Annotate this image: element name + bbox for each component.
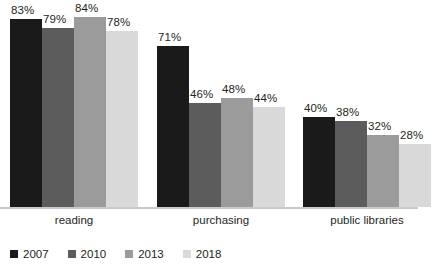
legend-item-2010[interactable]: 2010 xyxy=(68,248,107,260)
bar-value-label: 71% xyxy=(158,31,202,43)
legend-swatch-icon xyxy=(125,250,133,258)
bar-purchasing-2010 xyxy=(189,103,221,207)
bar-value-label: 78% xyxy=(107,16,151,28)
legend-item-2007[interactable]: 2007 xyxy=(10,248,49,260)
bar-public-libraries-2007 xyxy=(303,117,335,207)
category-label-reading: reading xyxy=(10,214,138,226)
bar-purchasing-2013 xyxy=(221,98,253,207)
bar-public-libraries-2013 xyxy=(367,135,399,207)
bar-purchasing-2007 xyxy=(157,46,189,207)
chart-legend: 2007201020132018 xyxy=(10,246,240,262)
bar-value-label: 28% xyxy=(400,129,435,141)
legend-swatch-icon xyxy=(68,250,76,258)
category-label-purchasing: purchasing xyxy=(157,214,285,226)
legend-item-2013[interactable]: 2013 xyxy=(125,248,164,260)
legend-label: 2013 xyxy=(138,248,164,260)
x-axis-baseline xyxy=(0,207,418,209)
legend-label: 2007 xyxy=(23,248,49,260)
bar-reading-2010 xyxy=(42,28,74,207)
bar-value-label: 44% xyxy=(254,92,298,104)
legend-item-2018[interactable]: 2018 xyxy=(183,248,222,260)
legend-label: 2010 xyxy=(81,248,107,260)
legend-swatch-icon xyxy=(10,250,18,258)
bar-reading-2013 xyxy=(74,17,106,207)
legend-label: 2018 xyxy=(196,248,222,260)
category-label-public-libraries: public libraries xyxy=(303,214,431,226)
bar-public-libraries-2018 xyxy=(399,144,431,207)
bar-reading-2018 xyxy=(106,31,138,207)
bar-reading-2007 xyxy=(10,19,42,207)
bar-value-label: 84% xyxy=(75,2,119,14)
bar-value-label: 38% xyxy=(336,106,380,118)
plot-area: 83%79%84%78%71%46%48%44%40%38%32%28% xyxy=(0,0,418,209)
bar-public-libraries-2010 xyxy=(335,121,367,207)
legend-swatch-icon xyxy=(183,250,191,258)
bar-purchasing-2018 xyxy=(253,107,285,207)
